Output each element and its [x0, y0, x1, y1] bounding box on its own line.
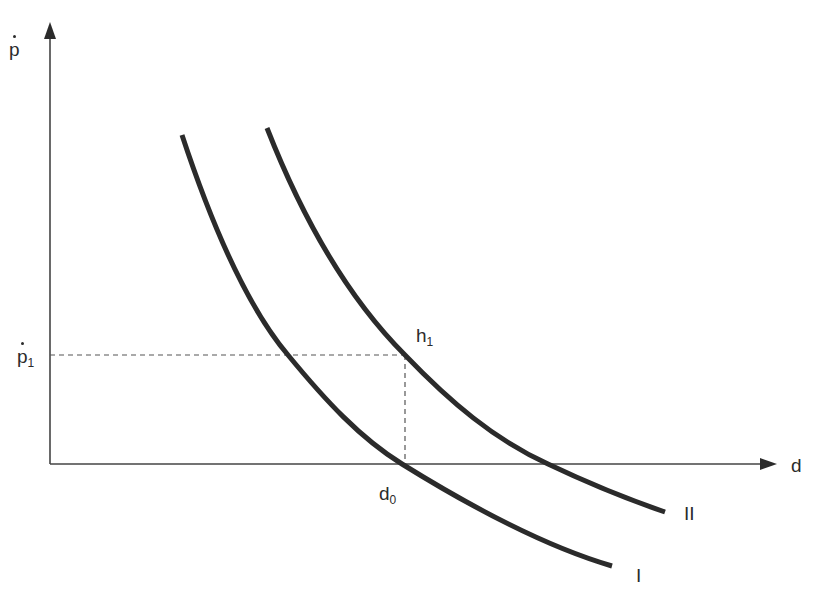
p1-label-base: p: [17, 347, 28, 366]
d0-label: d0: [379, 484, 396, 506]
curve-I-label-text: I: [636, 565, 641, 586]
y-axis-label-text: p: [9, 40, 20, 59]
curve-II-label: II: [684, 504, 695, 523]
d0-label-sub: 0: [390, 493, 397, 507]
p1-label-sub: 1: [28, 356, 35, 370]
curve-II: [267, 128, 665, 512]
h1-label-base: h: [416, 325, 427, 346]
d0-label-base: d: [379, 483, 390, 504]
curve-II-label-text: II: [684, 503, 695, 524]
x-axis-label-text: d: [791, 455, 802, 476]
x-axis-label: d: [791, 456, 802, 475]
h1-label-sub: 1: [427, 335, 434, 349]
y-axis-label: p: [9, 40, 20, 59]
phillips-curve-diagram: [0, 0, 813, 589]
h1-label: h1: [416, 326, 433, 348]
curve-I-label: I: [636, 566, 641, 585]
x-axis-arrow-icon: [760, 458, 777, 470]
p1-label: p1: [17, 347, 34, 369]
curve-I: [182, 135, 612, 566]
y-axis-arrow-icon: [44, 22, 56, 39]
